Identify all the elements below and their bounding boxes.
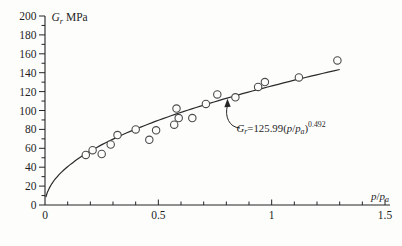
data-point [98, 150, 105, 157]
x-tick-label: 0.5 [151, 209, 166, 221]
y-tick-label: 160 [19, 48, 37, 60]
x-tick-label: 1.5 [378, 209, 393, 221]
y-tick-label: 80 [25, 123, 37, 135]
data-point [254, 83, 261, 90]
data-point [295, 74, 302, 81]
y-tick-label: 0 [31, 199, 37, 211]
y-tick-label: 100 [19, 105, 37, 117]
annotation-arrowhead [224, 99, 230, 108]
data-point [232, 94, 239, 101]
figure: 02040608010012014016018020000.511.5Gr MP… [0, 0, 402, 246]
scatter-chart: 02040608010012014016018020000.511.5Gr MP… [0, 0, 402, 246]
data-point [173, 105, 180, 112]
equation-label: Gr=125.99(p/pa)0.492 [237, 120, 326, 137]
y-tick-label: 40 [25, 161, 37, 173]
data-point [189, 114, 196, 121]
data-point [171, 121, 178, 128]
data-point [334, 57, 341, 64]
y-tick-label: 20 [25, 180, 37, 192]
y-tick-label: 60 [25, 142, 37, 154]
y-axis-title: Gr MPa [52, 11, 88, 26]
data-point [89, 147, 96, 154]
y-tick-label: 200 [19, 10, 37, 22]
x-axis-title: p/pa [370, 190, 389, 205]
data-point [175, 114, 182, 121]
data-point [146, 136, 153, 143]
x-tick-label: 1 [269, 209, 275, 221]
y-tick-label: 140 [19, 67, 37, 79]
data-point [202, 100, 209, 107]
data-point [107, 141, 114, 148]
y-tick-label: 120 [19, 86, 37, 98]
data-point [114, 131, 121, 138]
x-tick-label: 0 [42, 209, 48, 221]
data-point [82, 151, 89, 158]
data-point [261, 78, 268, 85]
data-point [132, 126, 139, 133]
data-point [152, 127, 159, 134]
data-point [214, 91, 221, 98]
y-tick-label: 180 [19, 29, 37, 41]
